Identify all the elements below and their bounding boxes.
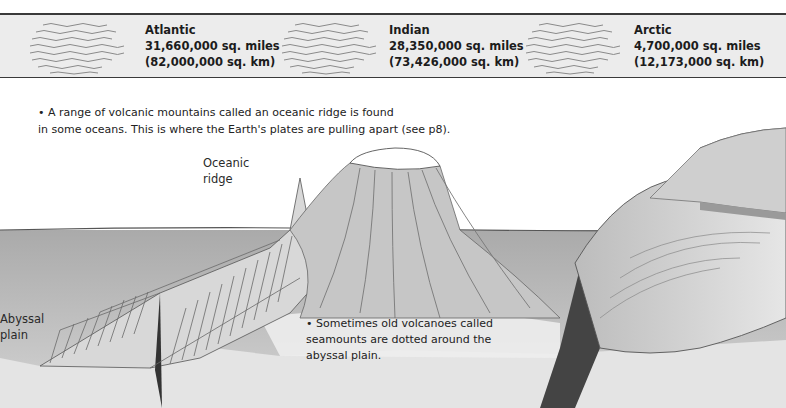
ocean-info: Atlantic 31,660,000 sq. miles (82,000,00… [145,22,280,70]
abyssal-plain-label: Abyssal plain [0,311,44,343]
ocean-area-km: (12,173,000 sq. km) [634,54,764,70]
ocean-stats-band: Atlantic 31,660,000 sq. miles (82,000,00… [0,13,786,78]
label-line: Abyssal [0,311,44,327]
ocean-atlantic: Atlantic 31,660,000 sq. miles (82,000,00… [0,15,262,77]
caption-line: abyssal plain. [306,348,493,364]
ocean-info: Arctic 4,700,000 sq. miles (12,173,000 s… [634,22,764,70]
ocean-area-km: (82,000,000 sq. km) [145,54,280,70]
waves-icon [28,19,128,75]
continental-shelf [575,128,786,353]
label-line: Oceanic [203,155,249,171]
caption-line: • Sometimes old volcanoes called [306,316,493,332]
ocean-info: Indian 28,350,000 sq. miles (73,426,000 … [389,22,524,70]
ocean-area-miles: 4,700,000 sq. miles [634,38,764,54]
ocean-indian: Indian 28,350,000 sq. miles (73,426,000 … [262,15,524,77]
ocean-area-miles: 28,350,000 sq. miles [389,38,524,54]
caption-line: seamounts are dotted around the [306,332,493,348]
label-line: plain [0,327,44,343]
label-line: ridge [203,171,249,187]
waves-icon [524,19,624,75]
ocean-arctic: Arctic 4,700,000 sq. miles (12,173,000 s… [524,15,786,77]
waves-icon [280,19,380,75]
ocean-area-miles: 31,660,000 sq. miles [145,38,280,54]
ocean-area-km: (73,426,000 sq. km) [389,54,524,70]
ocean-name: Atlantic [145,22,280,38]
ocean-name: Indian [389,22,524,38]
oceanic-ridge-label: Oceanic ridge [203,155,249,187]
ocean-name: Arctic [634,22,764,38]
seamount-caption: • Sometimes old volcanoes called seamoun… [306,316,493,364]
ocean-floor-illustration [0,118,786,408]
